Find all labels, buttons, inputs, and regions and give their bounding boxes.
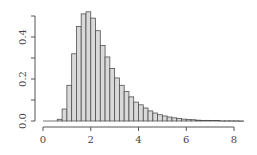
histogram-bar (158, 115, 163, 121)
histogram-bar (105, 57, 110, 121)
histogram-bar (139, 105, 144, 121)
histogram-bar (201, 120, 206, 121)
x-tick-label: 2 (88, 134, 94, 145)
histogram-bar (81, 14, 86, 121)
histogram-bar (191, 120, 196, 121)
histogram-bar (148, 111, 153, 121)
x-tick-label: 8 (231, 134, 237, 145)
histogram-bar (186, 120, 191, 121)
histogram-bar (67, 85, 72, 121)
x-tick-label: 0 (40, 134, 46, 145)
histogram-bar (134, 102, 139, 121)
histogram-bar (162, 116, 167, 121)
x-tick-label: 4 (135, 134, 141, 145)
histogram-bar (129, 97, 134, 121)
y-axis: 0.00.20.4 (17, 16, 35, 129)
histogram-chart: 0.00.20.4 02468 (0, 0, 257, 155)
histogram-bar (172, 118, 177, 121)
histogram-bar (62, 109, 67, 121)
histogram-bar (76, 27, 81, 122)
histogram-bar (124, 92, 129, 121)
histogram-bar (167, 117, 172, 121)
x-tick-label: 6 (183, 134, 189, 145)
histogram-bar (196, 120, 201, 121)
histogram-bar (100, 45, 105, 121)
histogram-bar (177, 118, 182, 121)
histogram-bar (115, 78, 120, 121)
histogram-bar (96, 31, 101, 121)
histogram-bar (143, 108, 148, 121)
x-axis: 02468 (40, 127, 237, 145)
y-tick-label: 0.4 (17, 29, 28, 45)
y-tick-label: 0.2 (17, 71, 28, 87)
histogram-bar (72, 54, 77, 121)
histogram-bar (57, 119, 62, 121)
histogram-bar (205, 120, 210, 121)
histogram-bar (91, 18, 96, 121)
histogram-bar (86, 12, 91, 121)
histogram-bar (181, 119, 186, 121)
histogram-bar (153, 113, 158, 121)
histogram-bar (119, 85, 124, 121)
histogram-bar (110, 69, 115, 122)
y-tick-label: 0.0 (17, 113, 28, 129)
histogram-bars (43, 12, 244, 121)
